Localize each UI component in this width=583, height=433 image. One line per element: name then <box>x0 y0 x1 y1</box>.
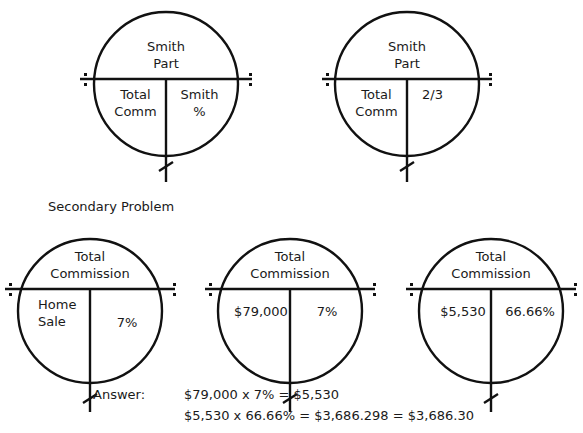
label-line: Smith <box>172 86 227 103</box>
diagram-1-bottom-right-label: Smith % <box>172 86 227 120</box>
secondary-2-bottom-left-label: $79,000 <box>233 303 289 320</box>
secondary-1-bottom-right-label: 7% <box>102 314 152 331</box>
label-line: Commission <box>240 265 340 282</box>
label-line: $5,530 <box>438 303 488 320</box>
label-line: Comm <box>108 103 163 120</box>
label-line: Comm <box>349 103 404 120</box>
diagram-lines <box>0 0 583 433</box>
label-line: Smith <box>367 38 447 55</box>
secondary-3-bottom-right-label: 66.66% <box>500 303 560 320</box>
label-line: 7% <box>302 303 352 320</box>
secondary-2-top-label: Total Commission <box>240 248 340 282</box>
label-line: Home <box>38 296 88 313</box>
label-line: Part <box>367 55 447 72</box>
label-line: Total <box>441 248 541 265</box>
secondary-1-bottom-left-label: Home Sale <box>38 296 88 330</box>
diagram-2-bottom-left-label: Total Comm <box>349 86 404 120</box>
label-line: 7% <box>102 314 152 331</box>
secondary-1-top-label: Total Commission <box>40 248 140 282</box>
label-line: Total <box>108 86 163 103</box>
diagram-1-bottom-left-label: Total Comm <box>108 86 163 120</box>
answer-line-2: $5,530 x 66.66% = $3,686.298 = $3,686.30 <box>184 405 474 426</box>
diagram-1-top-label: Smith Part <box>126 38 206 72</box>
secondary-2-bottom-right-label: 7% <box>302 303 352 320</box>
secondary-problem-title: Secondary Problem <box>48 199 174 214</box>
answer-line-1: $79,000 x 7% = $5,530 <box>184 384 474 405</box>
label-line: Sale <box>38 313 88 330</box>
label-line: Total <box>40 248 140 265</box>
label-line: Smith <box>126 38 206 55</box>
diagram-2-bottom-right-label: 2/3 <box>410 86 455 103</box>
label-line: 2/3 <box>410 86 455 103</box>
label-line: Commission <box>441 265 541 282</box>
label-line: Commission <box>40 265 140 282</box>
label-line: % <box>172 103 227 120</box>
answer-label: Answer: <box>93 384 145 405</box>
secondary-3-top-label: Total Commission <box>441 248 541 282</box>
secondary-3-bottom-left-label: $5,530 <box>438 303 488 320</box>
label-line: Part <box>126 55 206 72</box>
answer-lines: $79,000 x 7% = $5,530 $5,530 x 66.66% = … <box>184 384 474 426</box>
label-line: Total <box>240 248 340 265</box>
label-line: Total <box>349 86 404 103</box>
diagram-2-top-label: Smith Part <box>367 38 447 72</box>
label-line: $79,000 <box>233 303 289 320</box>
label-line: 66.66% <box>500 303 560 320</box>
